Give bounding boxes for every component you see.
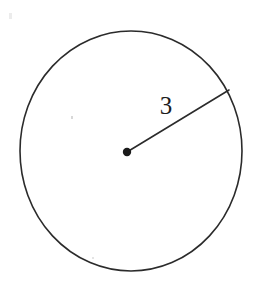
radius-label: 3 xyxy=(160,92,173,119)
geometry-figure: 3 xyxy=(0,0,266,284)
center-point-dot xyxy=(123,148,131,156)
radius-line xyxy=(127,90,229,152)
circle-diagram-svg: 3 xyxy=(0,0,266,284)
